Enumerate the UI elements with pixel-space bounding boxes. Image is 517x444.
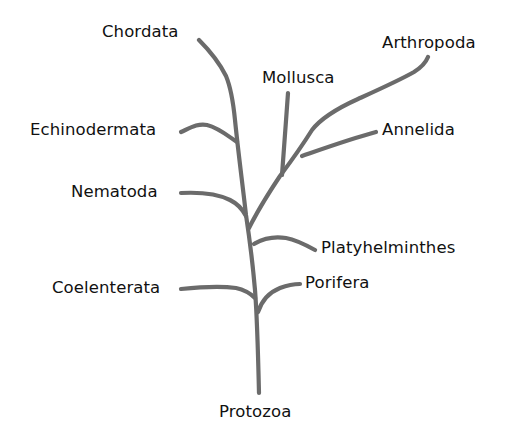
branch-nematoda	[181, 193, 246, 216]
label-mollusca: Mollusca	[262, 70, 335, 87]
tree-branches	[0, 0, 517, 444]
branch-porifera	[258, 284, 300, 312]
branch-coelenterata	[181, 287, 255, 298]
phylogenetic-tree-diagram: Chordata Arthropoda Mollusca Echinoderma…	[0, 0, 517, 444]
label-arthropoda: Arthropoda	[382, 35, 476, 52]
branch-mollusca	[282, 93, 288, 175]
branch-annelida	[302, 132, 376, 156]
branch-trunk-chordata	[199, 40, 259, 393]
label-protozoa: Protozoa	[219, 404, 291, 421]
label-porifera: Porifera	[305, 275, 369, 292]
label-platyhelminthes: Platyhelminthes	[321, 240, 455, 257]
label-chordata: Chordata	[102, 24, 179, 41]
label-coelenterata: Coelenterata	[52, 280, 160, 297]
label-nematoda: Nematoda	[71, 184, 158, 201]
label-annelida: Annelida	[382, 122, 455, 139]
label-echinodermata: Echinodermata	[30, 122, 156, 139]
branch-platyhelminthes	[254, 237, 315, 250]
branch-echinodermata	[181, 125, 237, 142]
